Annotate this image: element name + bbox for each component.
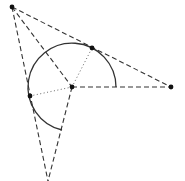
dotted-radius-O-T1 [72, 48, 92, 87]
point-T1 [90, 46, 95, 51]
dotted-radius-O-T2 [30, 87, 72, 96]
geometry-diagram [0, 0, 185, 181]
dashed-segment-A-O [12, 7, 72, 87]
point-B [169, 85, 174, 90]
dashed-segment-O-C [48, 87, 72, 181]
point-A [10, 5, 15, 10]
dashed-lines [12, 7, 171, 181]
point-O [70, 85, 75, 90]
point-T2 [28, 94, 33, 99]
